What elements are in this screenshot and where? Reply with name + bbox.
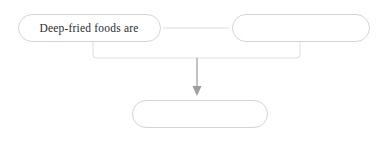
arrowhead-down-icon bbox=[193, 86, 202, 96]
diagram-canvas: Deep-fried foods are bbox=[0, 0, 391, 143]
diagram-graphics bbox=[0, 0, 391, 143]
connector-bracket bbox=[93, 42, 300, 58]
node-box-3[interactable] bbox=[133, 101, 268, 128]
node-box-2[interactable] bbox=[233, 15, 370, 42]
node-box-1[interactable] bbox=[19, 15, 161, 42]
